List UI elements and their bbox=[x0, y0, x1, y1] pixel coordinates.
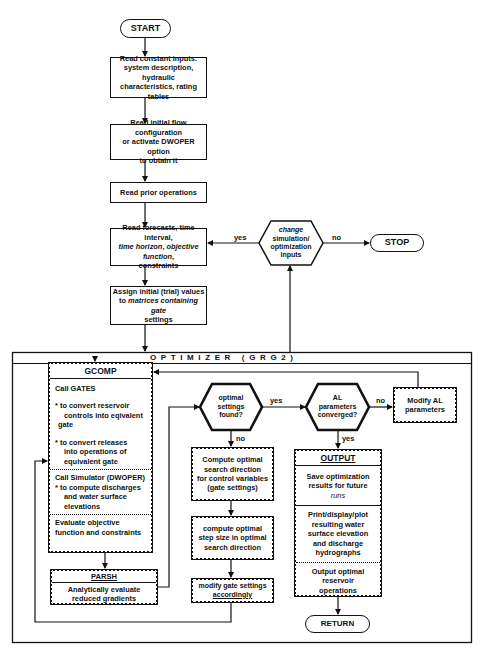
text-line: search direction bbox=[204, 543, 261, 552]
text-line: reduced gradients bbox=[68, 594, 141, 603]
parsh-title: PARSH bbox=[52, 571, 156, 583]
text-line: runs bbox=[296, 491, 380, 500]
output-title: OUTPUT bbox=[296, 451, 380, 466]
return-label: RETURN bbox=[321, 619, 354, 629]
text-line: Call GATES bbox=[55, 384, 146, 393]
text-line: settings bbox=[218, 403, 245, 412]
text-line: to matrices containing gate bbox=[111, 296, 206, 315]
gcomp-title: GCOMP bbox=[50, 364, 151, 379]
text-line: simulation/ bbox=[273, 235, 310, 243]
text-line: Call Simulator (DWOPER) bbox=[55, 473, 146, 482]
text-line: parameters bbox=[405, 405, 445, 414]
text-line: function and constraints bbox=[55, 528, 146, 537]
change-inputs-decision: change simulation/ optimization inputs bbox=[259, 221, 323, 265]
text-line: parameters bbox=[319, 403, 357, 412]
text-line: Save optimization bbox=[296, 472, 380, 481]
text-line: equivalent gate bbox=[55, 457, 146, 466]
text-line: compute optimal bbox=[203, 524, 262, 533]
text-line: Evaluate objective bbox=[55, 518, 146, 527]
text-line: converged? bbox=[318, 411, 358, 420]
al-converged-decision: AL parameters converged? bbox=[306, 384, 369, 430]
compute-search-direction-box: Compute optimal search direction for con… bbox=[191, 447, 274, 501]
stop-terminal: STOP bbox=[370, 234, 424, 252]
output-save-section: Save optimization results for future run… bbox=[296, 466, 380, 505]
output-final-section: Output optimal reservoir operations bbox=[296, 562, 380, 599]
text-line: optimization bbox=[270, 243, 311, 251]
text-line: controls into eqivalent bbox=[55, 411, 146, 420]
text-line: settings bbox=[144, 315, 172, 324]
modify-al-parameters-box: Modify AL parameters bbox=[393, 387, 457, 423]
start-terminal: START bbox=[120, 19, 171, 38]
text-line: into operations of bbox=[55, 447, 146, 456]
text-line: (gate settings) bbox=[207, 483, 258, 492]
parsh-box: PARSH Analytically evaluate reduced grad… bbox=[50, 569, 158, 605]
gcomp-gates-section: Call GATES * to convert reservoir contro… bbox=[50, 379, 151, 469]
italic-text: time horizon bbox=[118, 242, 162, 251]
italic-text: matrices containing gate bbox=[128, 296, 198, 314]
text-line: gate bbox=[55, 420, 146, 429]
text-line: Read constant inputs: bbox=[120, 54, 198, 63]
text-line: resulting water bbox=[296, 520, 380, 529]
text-line: * to compute discharges bbox=[55, 483, 146, 492]
optimal-yes-label: yes bbox=[270, 396, 282, 405]
modify-gate-settings-box: modify gate settings accordingly bbox=[191, 578, 274, 603]
al-no-label: no bbox=[376, 396, 385, 405]
text-line: Read prior operations bbox=[120, 188, 197, 197]
gcomp-simulator-section: Call Simulator (DWOPER) * to compute dis… bbox=[50, 469, 151, 514]
text: , bbox=[172, 252, 174, 261]
text-line: and discharge bbox=[296, 539, 380, 548]
text-line: step size in optimal bbox=[198, 533, 266, 542]
change-no-label: no bbox=[332, 233, 341, 242]
text-line: Print/display/plot bbox=[296, 510, 380, 519]
read-constant-inputs-box: Read constant inputs: system description… bbox=[110, 57, 207, 98]
text-line: results for future bbox=[296, 481, 380, 490]
text-line: Assign initial (trial) values bbox=[113, 287, 205, 296]
text-line: Output optimal bbox=[296, 567, 380, 576]
start-label: START bbox=[131, 23, 160, 35]
text-line: found? bbox=[219, 411, 243, 420]
text-line: constraints bbox=[139, 261, 179, 270]
text-line: Compute optimal bbox=[202, 455, 262, 464]
text-line: optimal bbox=[219, 394, 244, 403]
text-line: * to convert reservoir bbox=[55, 401, 146, 410]
text-line: system description, hydraulic bbox=[111, 63, 206, 82]
text-line: Read forecasts, time interval, bbox=[111, 223, 206, 242]
text-line: operations bbox=[296, 586, 380, 595]
text-line: to obtain it bbox=[140, 156, 178, 165]
text-line: elevations bbox=[55, 502, 146, 511]
assign-initial-values-box: Assign initial (trial) values to matrice… bbox=[110, 286, 207, 325]
text-line: and water surface bbox=[55, 492, 146, 501]
read-initial-flow-box: Read initial flow configuration or activ… bbox=[110, 124, 207, 160]
text-line: * to convert releases bbox=[55, 438, 146, 447]
text-line: hydrographs bbox=[296, 548, 380, 557]
change-yes-label: yes bbox=[234, 233, 246, 242]
text-line: change bbox=[279, 226, 304, 234]
text-line: inputs bbox=[281, 251, 302, 259]
text-line: search direction bbox=[204, 465, 261, 474]
read-forecasts-box: Read forecasts, time interval, time hori… bbox=[110, 228, 207, 266]
optimizer-title: O P T I M I Z E R ( G R G 2 ) bbox=[150, 353, 294, 362]
stop-label: STOP bbox=[385, 237, 409, 249]
text-line: Analytically evaluate bbox=[68, 585, 141, 594]
text-line: characteristics, rating tables bbox=[111, 82, 206, 101]
gcomp-evaluate-section: Evaluate objective function and constrai… bbox=[50, 514, 151, 540]
text-line: Modify AL bbox=[407, 396, 442, 405]
text-line: AL bbox=[333, 394, 342, 403]
text-line: Read initial flow configuration bbox=[111, 118, 206, 137]
text-line: accordingly bbox=[213, 591, 252, 600]
text-line: time horizon, objective function, bbox=[111, 242, 206, 261]
output-box: OUTPUT Save optimization results for fut… bbox=[294, 449, 382, 597]
text-line: or activate DWOPER option bbox=[111, 137, 206, 156]
text-line: modify gate settings bbox=[198, 582, 266, 591]
optimal-no-label: no bbox=[236, 434, 245, 443]
return-terminal: RETURN bbox=[305, 615, 370, 633]
al-yes-label: yes bbox=[342, 434, 354, 443]
compute-step-size-box: compute optimal step size in optimal sea… bbox=[191, 516, 274, 560]
read-prior-operations-box: Read prior operations bbox=[110, 182, 207, 203]
text-line: reservoir bbox=[296, 576, 380, 585]
text-line: for control variables bbox=[197, 474, 268, 483]
optimal-settings-decision: optimal settings found? bbox=[200, 384, 262, 430]
output-print-section: Print/display/plot resulting water surfa… bbox=[296, 505, 380, 561]
parsh-body: Analytically evaluate reduced gradients bbox=[68, 583, 141, 604]
gcomp-box: GCOMP Call GATES * to convert reservoir … bbox=[48, 362, 153, 553]
